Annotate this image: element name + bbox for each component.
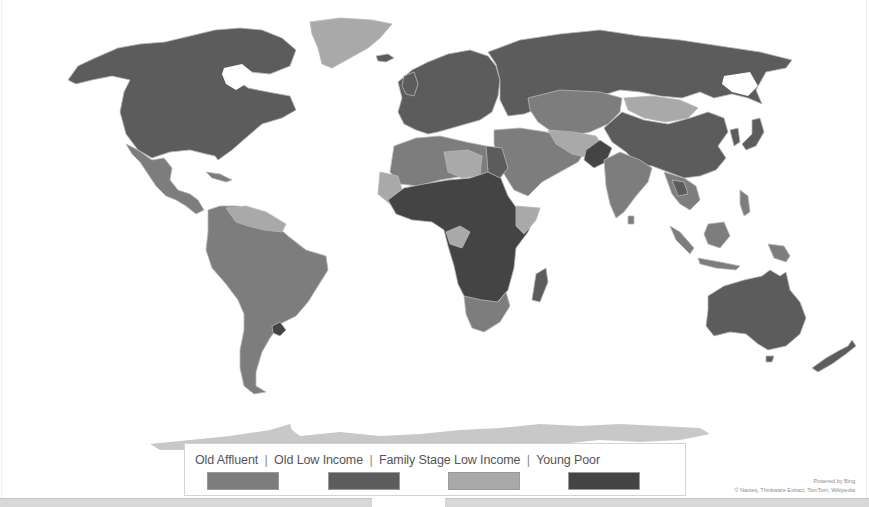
region-madagascar[interactable] xyxy=(532,268,548,302)
world-map-canvas[interactable] xyxy=(0,0,869,498)
region-mexico-central-america[interactable] xyxy=(126,144,204,214)
region-horn-of-africa[interactable] xyxy=(516,206,540,234)
legend-label-family-stage-low-income: Family Stage Low Income xyxy=(379,453,521,467)
region-philippines[interactable] xyxy=(740,190,750,216)
region-north-america[interactable] xyxy=(68,28,296,160)
region-java[interactable] xyxy=(698,258,740,270)
legend-swatch-family-stage-low-income xyxy=(448,472,520,490)
region-australia[interactable] xyxy=(706,270,806,350)
legend-separator: | xyxy=(366,453,375,467)
legend-label-young-poor: Young Poor xyxy=(536,453,600,467)
region-japan[interactable] xyxy=(742,118,764,150)
legend-separator: | xyxy=(262,453,271,467)
region-tasmania[interactable] xyxy=(766,356,774,362)
legend-label-old-affluent: Old Affluent xyxy=(195,453,258,467)
map-data-credit: © Navteq, Thinkware Extract, TomTom, Wik… xyxy=(734,487,855,493)
region-sumatra[interactable] xyxy=(670,226,694,254)
region-new-guinea[interactable] xyxy=(768,244,790,262)
legend-separator: | xyxy=(524,453,533,467)
region-iceland[interactable] xyxy=(376,54,394,62)
world-map[interactable] xyxy=(0,0,869,498)
legend-swatch-old-affluent xyxy=(207,472,279,490)
legend-swatch-old-low-income xyxy=(328,472,400,490)
bottom-scroll-bar-right[interactable] xyxy=(445,498,869,507)
bing-credit: Powered by Bing xyxy=(813,478,855,484)
bottom-scroll-bar-left[interactable] xyxy=(0,498,372,507)
legend-label-old-low-income: Old Low Income xyxy=(274,453,363,467)
region-south-america[interactable] xyxy=(206,206,328,394)
region-new-zealand[interactable] xyxy=(812,340,856,372)
region-borneo[interactable] xyxy=(704,222,730,248)
legend-labels: Old Affluent | Old Low Income | Family S… xyxy=(195,453,600,467)
region-sri-lanka[interactable] xyxy=(628,216,634,224)
region-korea[interactable] xyxy=(730,128,740,146)
legend-swatch-young-poor xyxy=(568,472,640,490)
region-caribbean[interactable] xyxy=(206,172,232,182)
map-legend: Old Affluent | Old Low Income | Family S… xyxy=(184,443,686,496)
